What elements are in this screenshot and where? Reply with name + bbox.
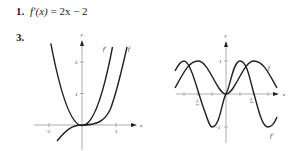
graph2-curve-label-fprime: f′ xyxy=(270,132,274,139)
graph2-curve-label-f: f xyxy=(268,64,271,71)
graph2-x-arrow-icon xyxy=(273,92,279,96)
graph2-tick-label: π/2 xyxy=(249,98,254,103)
graph2-tick-label: −1 xyxy=(215,125,221,130)
graph2-y-arrow-icon xyxy=(224,41,228,47)
graph-2: x y −π/2 π/2 1 −1 f f′ xyxy=(0,0,305,151)
graph2-x-label: x xyxy=(282,92,286,97)
graph2-tick-label: −π/2 xyxy=(195,98,200,105)
graph2-y-label: y xyxy=(224,33,228,38)
graph2-tick-label: 1 xyxy=(219,59,222,64)
